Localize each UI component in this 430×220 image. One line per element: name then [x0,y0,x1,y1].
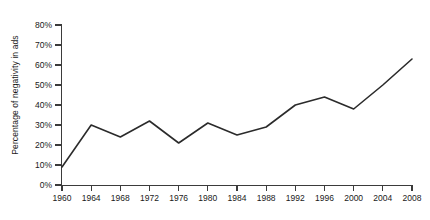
plot-area: 0%10%20%30%40%50%60%70%80% 1960196419681… [0,0,430,220]
series-line-negativity [62,59,412,167]
line-chart: Percentage of negativity in ads 0%10%20%… [0,0,430,220]
data-series-layer [0,0,430,220]
